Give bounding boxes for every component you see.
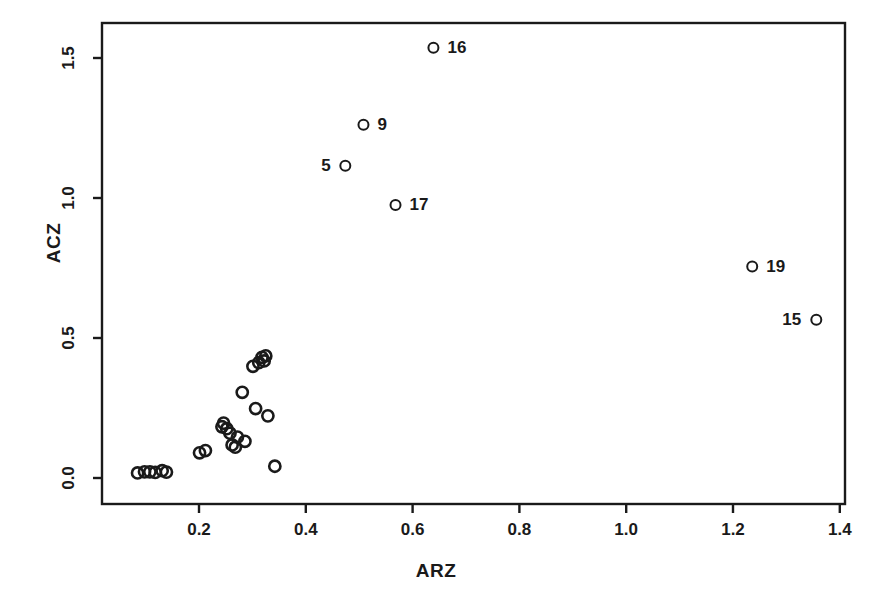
data-point-marker: [250, 403, 261, 414]
y-tick-label: 0.0: [59, 455, 79, 501]
x-tick-label: 1.4: [817, 520, 863, 540]
plot-frame: [102, 23, 845, 504]
data-points: [132, 43, 821, 479]
data-point-label: 15: [782, 310, 801, 330]
x-axis-label: ARZ: [0, 560, 872, 582]
y-tick-label: 1.5: [59, 35, 79, 81]
y-tick-label: 1.0: [59, 175, 79, 221]
data-point-marker: [747, 262, 757, 272]
data-point-label: 16: [447, 38, 466, 58]
data-point-marker: [428, 43, 438, 53]
x-tick-label: 0.8: [496, 520, 542, 540]
x-tick-label: 0.2: [176, 520, 222, 540]
y-tick-label: 0.5: [59, 315, 79, 361]
plot-canvas: [0, 0, 872, 604]
x-tick-label: 0.4: [283, 520, 329, 540]
data-point-label: 19: [766, 257, 785, 277]
data-point-marker: [269, 461, 280, 472]
data-point-marker: [340, 161, 350, 171]
data-point-label: 17: [410, 195, 429, 215]
data-point-marker: [391, 200, 401, 210]
data-point-marker: [237, 387, 248, 398]
data-point-marker: [811, 315, 821, 325]
data-point-marker: [262, 410, 273, 421]
x-tick-label: 1.0: [603, 520, 649, 540]
x-tick-label: 1.2: [710, 520, 756, 540]
scatter-plot-figure: ACZ ARZ 0.20.40.60.81.01.21.40.00.51.01.…: [0, 0, 872, 604]
plot-border: [102, 23, 845, 504]
data-point-label: 9: [377, 115, 386, 135]
x-tick-label: 0.6: [390, 520, 436, 540]
data-point-marker: [358, 120, 368, 130]
data-point-label: 5: [321, 156, 330, 176]
